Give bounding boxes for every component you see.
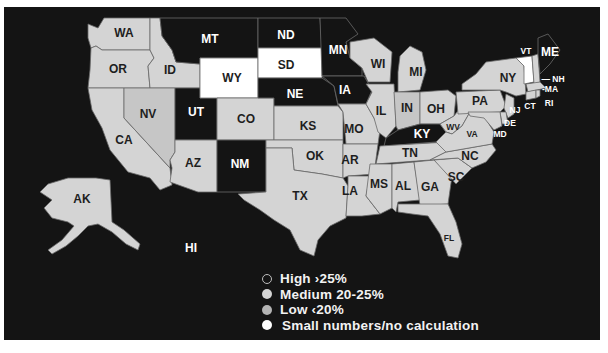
label-MN: MN xyxy=(329,43,348,57)
legend-item-low: Low ‹20% xyxy=(262,302,479,318)
legend-swatch-medium xyxy=(262,289,272,299)
label-VT: VT xyxy=(521,46,533,56)
label-OK: OK xyxy=(306,149,324,163)
label-DE: DE xyxy=(504,118,516,128)
label-NJ: NJ xyxy=(510,105,521,115)
label-WI: WI xyxy=(371,57,386,71)
legend-swatch-high xyxy=(262,274,272,284)
label-VA: VA xyxy=(466,129,477,139)
label-TX: TX xyxy=(292,189,307,203)
label-NC: NC xyxy=(461,149,479,163)
label-IN: IN xyxy=(401,101,413,115)
label-KS: KS xyxy=(300,119,317,133)
label-MO: MO xyxy=(344,122,363,136)
label-WY: WY xyxy=(222,71,241,85)
label-OR: OR xyxy=(109,62,127,76)
label-MT: MT xyxy=(201,32,219,46)
label-HI: HI xyxy=(185,241,197,255)
legend-item-medium: Medium 20-25% xyxy=(262,287,479,303)
label-FL: FL xyxy=(444,233,454,243)
label-AK: AK xyxy=(73,192,91,206)
label-TN: TN xyxy=(402,146,418,160)
label-ID: ID xyxy=(164,63,176,77)
label-MA: -MA xyxy=(542,84,558,94)
label-WA: WA xyxy=(114,26,134,40)
label-NV: NV xyxy=(140,107,157,121)
legend-swatch-low xyxy=(262,305,272,315)
legend-label: Medium 20-25% xyxy=(280,287,384,302)
label-LA: LA xyxy=(342,184,358,198)
label-ND: ND xyxy=(277,28,295,42)
label-NE: NE xyxy=(287,87,304,101)
label-WV: WV xyxy=(446,122,460,132)
label-CT: CT xyxy=(524,101,536,111)
label-GA: GA xyxy=(421,180,439,194)
map-legend: High ›25% Medium 20-25% Low ‹20% Small n… xyxy=(262,271,479,333)
label-IL: IL xyxy=(376,104,387,118)
legend-label: Small numbers/no calculation xyxy=(282,318,479,333)
label-AR: AR xyxy=(341,153,359,167)
label-KY: KY xyxy=(414,127,431,141)
label-AZ: AZ xyxy=(185,156,201,170)
label-MS: MS xyxy=(370,177,388,191)
legend-label: Low ‹20% xyxy=(280,302,344,317)
label-NY: NY xyxy=(500,71,517,85)
label-OH: OH xyxy=(427,102,445,116)
legend-swatch-small xyxy=(262,320,272,330)
legend-item-small: Small numbers/no calculation xyxy=(262,318,479,334)
label-ME: ME xyxy=(541,45,559,59)
legend-label: High ›25% xyxy=(280,271,347,286)
label-AL: AL xyxy=(395,179,411,193)
label-RI: RI xyxy=(545,98,554,108)
label-MI: MI xyxy=(409,65,422,79)
label-CO: CO xyxy=(237,112,255,126)
label-UT: UT xyxy=(188,105,205,119)
label-CA: CA xyxy=(115,133,133,147)
label-MD: MD xyxy=(493,129,506,139)
label-SC: SC xyxy=(448,170,465,184)
label-IA: IA xyxy=(339,83,351,97)
label-PA: PA xyxy=(472,94,488,108)
legend-item-high: High ›25% xyxy=(262,271,479,287)
label-NH: — NH xyxy=(541,74,564,84)
label-NM: NM xyxy=(231,157,250,171)
label-SD: SD xyxy=(278,58,295,72)
